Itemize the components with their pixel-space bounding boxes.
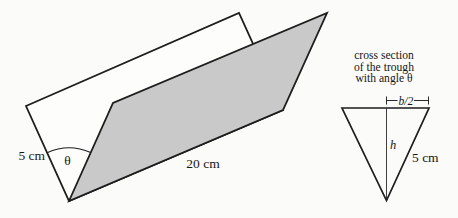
angle-theta-label: θ <box>64 153 70 168</box>
trough-figure: 5 cm θ 20 cm cross section of the trough… <box>0 0 458 218</box>
figure-svg: 5 cm θ 20 cm cross section of the trough… <box>0 0 458 218</box>
cross-section-caption: cross section of the trough with angle θ <box>354 49 414 85</box>
half-base-label: b/2 <box>398 95 413 108</box>
trough-length-label: 20 cm <box>186 156 220 171</box>
trough-side-length-label: 5 cm <box>18 148 45 163</box>
cross-section-side-label: 5 cm <box>412 150 439 165</box>
caption-line-3: with angle θ <box>355 72 413 85</box>
height-label: h <box>390 138 396 152</box>
